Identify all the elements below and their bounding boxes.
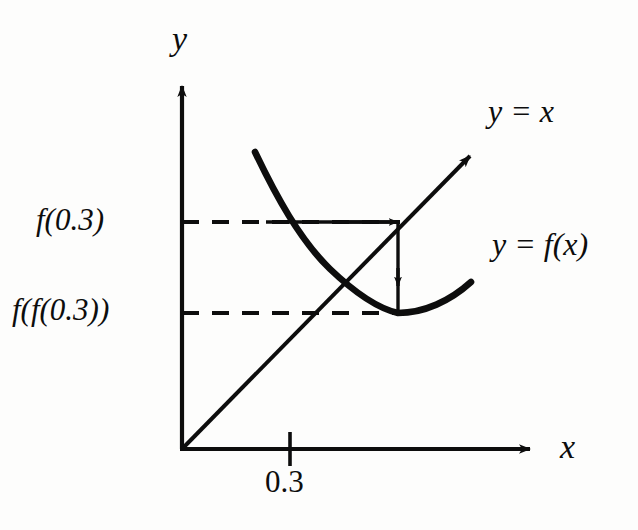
- function-curve-y-equals-f-of-x: [255, 152, 471, 313]
- x-axis-label: x: [560, 430, 575, 464]
- y-axis-label: y: [172, 22, 187, 56]
- y-value-label-f-of-0point3: f(0.3): [36, 204, 104, 235]
- x-tick-label-0point3: 0.3: [265, 466, 304, 497]
- y-value-label-f-of-f-of-0point3: f(f(0.3)): [12, 294, 109, 325]
- function-curve-label: y = f(x): [492, 228, 588, 260]
- diagram-svg: [0, 0, 638, 530]
- figure-canvas: y x y = x y = f(x) f(0.3) f(f(0.3)) 0.3: [0, 0, 638, 530]
- identity-line-label: y = x: [488, 95, 554, 127]
- identity-line-y-equals-x: [182, 156, 470, 449]
